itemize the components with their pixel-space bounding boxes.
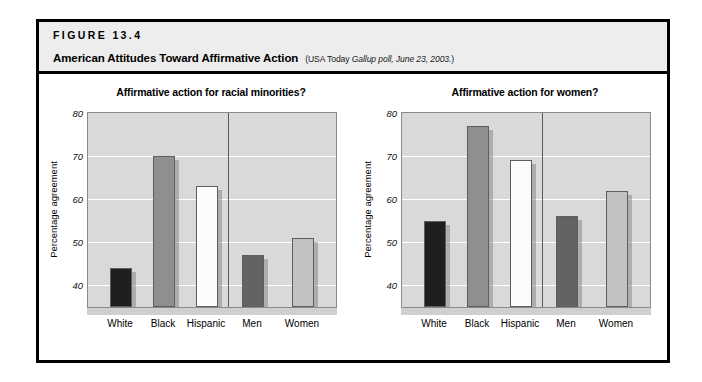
y-tick-60: 60 bbox=[72, 194, 83, 205]
source-prefix: (USA Today bbox=[305, 54, 352, 64]
figure-header-band: FIGURE 13.4 American Attitudes Toward Af… bbox=[39, 22, 667, 74]
x-label-black: Black bbox=[465, 318, 489, 329]
y-axis-ticks-racial-minorities: 4050607080 bbox=[59, 112, 85, 308]
bar-black[interactable] bbox=[467, 126, 489, 307]
x-label-men: Men bbox=[556, 318, 575, 329]
chart-title-women: Affirmative action for women? bbox=[353, 86, 667, 98]
bar-men[interactable] bbox=[556, 216, 578, 307]
y-tick-80: 80 bbox=[72, 108, 83, 119]
x-axis-labels-women: WhiteBlackHispanicMenWomen bbox=[401, 318, 651, 334]
figure-caption: American Attitudes Toward Affirmative Ac… bbox=[53, 48, 454, 66]
figure-number-label: FIGURE 13.4 bbox=[53, 29, 142, 41]
y-axis-ticks-women: 4050607080 bbox=[373, 112, 399, 308]
bar-women[interactable] bbox=[292, 238, 314, 307]
plot-area-racial-minorities bbox=[87, 112, 337, 308]
bar-men[interactable] bbox=[242, 255, 264, 307]
y-tick-40: 40 bbox=[386, 280, 397, 291]
bar-hispanic[interactable] bbox=[196, 186, 218, 307]
x-label-women: Women bbox=[599, 318, 633, 329]
group-divider bbox=[542, 113, 543, 307]
x-label-white: White bbox=[421, 318, 447, 329]
gridline-70 bbox=[88, 156, 336, 157]
figure-body: Affirmative action for racial minorities… bbox=[39, 74, 667, 360]
x-label-white: White bbox=[107, 318, 133, 329]
figure-frame: FIGURE 13.4 American Attitudes Toward Af… bbox=[36, 19, 670, 363]
x-axis-baseline-women bbox=[401, 308, 651, 315]
x-axis-labels-racial-minorities: WhiteBlackHispanicMenWomen bbox=[87, 318, 337, 334]
x-label-black: Black bbox=[151, 318, 175, 329]
bar-hispanic[interactable] bbox=[510, 160, 532, 307]
bar-women[interactable] bbox=[606, 191, 628, 307]
y-tick-80: 80 bbox=[386, 108, 397, 119]
bar-black[interactable] bbox=[153, 156, 175, 307]
x-axis-baseline-racial-minorities bbox=[87, 308, 337, 315]
chart-title-racial-minorities: Affirmative action for racial minorities… bbox=[39, 86, 353, 98]
gridline-70 bbox=[402, 156, 650, 157]
figure-source-note: (USA Today Gallup poll, June 23, 2003.) bbox=[305, 54, 454, 64]
y-tick-50: 50 bbox=[386, 237, 397, 248]
y-tick-40: 40 bbox=[72, 280, 83, 291]
y-tick-70: 70 bbox=[72, 151, 83, 162]
x-label-women: Women bbox=[285, 318, 319, 329]
x-label-men: Men bbox=[242, 318, 261, 329]
plot-area-women bbox=[401, 112, 651, 308]
y-tick-70: 70 bbox=[386, 151, 397, 162]
source-suffix: ) bbox=[451, 54, 454, 64]
x-label-hispanic: Hispanic bbox=[501, 318, 539, 329]
y-tick-60: 60 bbox=[386, 194, 397, 205]
source-citation: Gallup poll, June 23, 2003. bbox=[352, 54, 452, 64]
bar-white[interactable] bbox=[110, 268, 132, 307]
group-divider bbox=[228, 113, 229, 307]
x-label-hispanic: Hispanic bbox=[187, 318, 225, 329]
bar-white[interactable] bbox=[424, 221, 446, 307]
y-tick-50: 50 bbox=[72, 237, 83, 248]
figure-title: American Attitudes Toward Affirmative Ac… bbox=[53, 52, 298, 64]
chart-panel-racial-minorities: Affirmative action for racial minorities… bbox=[39, 74, 353, 360]
chart-panel-women: Affirmative action for women? Percentage… bbox=[353, 74, 667, 360]
